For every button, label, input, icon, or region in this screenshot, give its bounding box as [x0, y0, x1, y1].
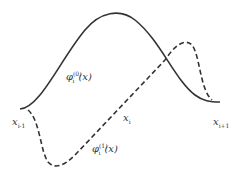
- curves-canvas: [0, 0, 236, 181]
- hermite-basis-diagram: φ(0)i(x) φ(1)i(x) xi-1 xi xi+1: [0, 0, 236, 181]
- x-mid-label: xi: [123, 112, 131, 125]
- phi0-curve: [20, 13, 220, 109]
- phi0-symbol: φ: [66, 71, 73, 82]
- phi1-symbol: φ: [92, 143, 99, 154]
- phi1-argument: (x): [104, 143, 117, 154]
- phi0-subscript: i: [73, 77, 75, 84]
- x-mid-subscript: i: [129, 118, 131, 125]
- phi1-label: φ(1)i(x): [92, 142, 118, 156]
- x-left-subscript: i-1: [18, 122, 26, 129]
- phi0-label: φ(0)i(x): [66, 70, 92, 84]
- phi0-argument: (x): [78, 71, 91, 82]
- x-right-subscript: i+1: [219, 122, 230, 129]
- x-right-label: xi+1: [213, 116, 229, 129]
- x-left-label: xi-1: [12, 116, 25, 129]
- phi1-subscript: i: [99, 149, 101, 156]
- phi1-curve: [28, 42, 212, 166]
